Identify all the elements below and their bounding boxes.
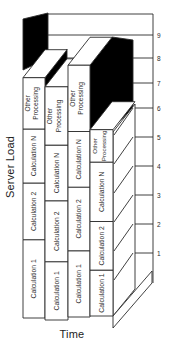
segment-label: Other bbox=[24, 94, 31, 111]
x-axis-title: Time bbox=[60, 328, 85, 340]
segment-label: Calculation 1 bbox=[30, 259, 37, 299]
segment-label: Other bbox=[69, 89, 76, 106]
segment-label: Calculation N bbox=[98, 172, 105, 213]
y-tick-label: 5 bbox=[157, 134, 161, 141]
segment-label: Calculation 1 bbox=[98, 273, 105, 313]
y-tick-label: 3 bbox=[157, 192, 161, 199]
segment-label: Calculation N bbox=[30, 136, 37, 177]
segment-label: Other bbox=[46, 107, 53, 124]
segment-label: Processing bbox=[55, 99, 63, 132]
y-tick-label: 7 bbox=[157, 80, 161, 87]
y-tick-label: 1 bbox=[157, 250, 161, 257]
segment-label: Processing bbox=[100, 130, 107, 161]
bar4-side-face bbox=[113, 104, 135, 316]
segment-label: Processing bbox=[77, 82, 85, 115]
segment-label: Calculation 1 bbox=[75, 264, 82, 304]
y-tick-label: 4 bbox=[157, 163, 161, 170]
segment-label: Calculation N bbox=[75, 139, 82, 180]
segment-label: Calculation N bbox=[53, 153, 60, 194]
server-load-chart-figure: Calculation 1Calculation 2Calculation NO… bbox=[0, 0, 171, 350]
segment-label: Processing bbox=[32, 87, 40, 120]
segment-label: Other bbox=[91, 138, 98, 154]
y-tick-label: 8 bbox=[157, 55, 161, 62]
segment-label: Calculation 1 bbox=[53, 271, 60, 311]
y-axis-title: Server Load bbox=[4, 136, 16, 198]
segment-label: Calculation 2 bbox=[30, 191, 37, 231]
chart-canvas: Calculation 1Calculation 2Calculation NO… bbox=[0, 0, 171, 350]
y-tick-label: 2 bbox=[157, 221, 161, 228]
segment-label: Calculation 2 bbox=[98, 226, 105, 266]
y-tick-label: 6 bbox=[157, 105, 161, 112]
y-tick-label: 9 bbox=[157, 32, 161, 39]
segment-label: Calculation 2 bbox=[53, 211, 60, 251]
segment-label: Calculation 2 bbox=[75, 199, 82, 239]
